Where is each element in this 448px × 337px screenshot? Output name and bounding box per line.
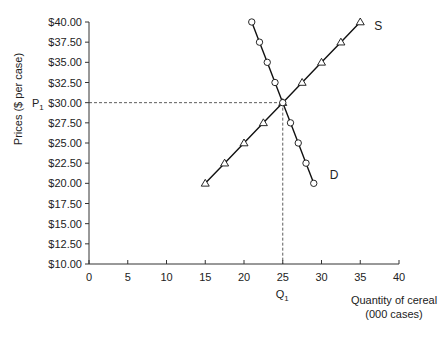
demand-point-marker bbox=[264, 59, 270, 65]
y-tick-label: $32.50 bbox=[48, 77, 82, 89]
x-tick-label: 35 bbox=[354, 271, 366, 283]
x-tick-label: 10 bbox=[160, 271, 172, 283]
y-tick-label: $15.00 bbox=[48, 218, 82, 230]
demand-point-marker bbox=[287, 120, 293, 126]
x-tick-label: 25 bbox=[277, 271, 289, 283]
supply-demand-chart: Prices ($ per case) $10.00$12.50$15.00$1… bbox=[0, 0, 448, 337]
supply-curve-label: S bbox=[374, 19, 382, 33]
plot-area bbox=[89, 18, 364, 264]
x-axis-title: (000 cases) bbox=[365, 308, 422, 320]
axis-labels: $10.00$12.50$15.00$17.50$20.00$22.50$25.… bbox=[32, 16, 437, 320]
demand-point-marker bbox=[256, 39, 262, 45]
y-tick-label: $30.00 bbox=[48, 97, 82, 109]
p1-label: P1 bbox=[32, 97, 44, 112]
x-tick-label: 0 bbox=[86, 271, 92, 283]
y-axis-title: Prices ($ per case) bbox=[12, 53, 24, 145]
supply-point-marker bbox=[356, 18, 364, 25]
y-tick-label: $40.00 bbox=[48, 16, 82, 28]
x-tick-label: 40 bbox=[393, 271, 405, 283]
demand-point-marker bbox=[249, 19, 255, 25]
x-tick-label: 15 bbox=[199, 271, 211, 283]
y-tick-label: $10.00 bbox=[48, 258, 82, 270]
x-tick-label: 20 bbox=[238, 271, 250, 283]
y-tick-label: $37.50 bbox=[48, 36, 82, 48]
demand-point-marker bbox=[303, 160, 309, 166]
x-tick-label: 5 bbox=[125, 271, 131, 283]
x-axis-title: Quantity of cereal bbox=[351, 294, 437, 306]
y-tick-label: $20.00 bbox=[48, 177, 82, 189]
demand-curve-label: D bbox=[330, 168, 339, 182]
demand-point-marker bbox=[311, 180, 317, 186]
demand-point-marker bbox=[295, 140, 301, 146]
demand-point-marker bbox=[280, 99, 286, 105]
y-tick-label: $17.50 bbox=[48, 198, 82, 210]
demand-point-marker bbox=[272, 79, 278, 85]
y-tick-label: $22.50 bbox=[48, 157, 82, 169]
y-tick-label: $25.00 bbox=[48, 137, 82, 149]
y-axis-title-group: Prices ($ per case) bbox=[12, 53, 24, 145]
x-tick-label: 30 bbox=[315, 271, 327, 283]
y-tick-label: $27.50 bbox=[48, 117, 82, 129]
y-tick-label: $35.00 bbox=[48, 56, 82, 68]
y-tick-label: $12.50 bbox=[48, 238, 82, 250]
q1-label: Q1 bbox=[276, 288, 290, 303]
